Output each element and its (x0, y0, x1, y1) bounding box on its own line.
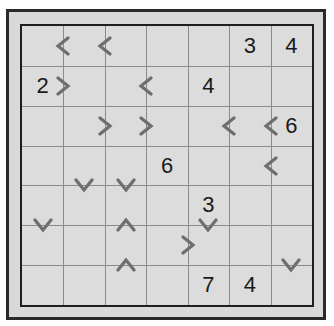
grid-cell[interactable] (229, 185, 270, 225)
grid-cell[interactable] (22, 146, 63, 186)
grid-cell[interactable] (63, 225, 104, 265)
arrow-down-icon (198, 215, 218, 235)
arrow-down-icon (33, 215, 53, 235)
cell-number: 4 (229, 265, 271, 305)
grid-cell[interactable] (22, 265, 63, 305)
grid-cell[interactable] (188, 26, 229, 66)
grid-cell[interactable] (188, 146, 229, 186)
cell-number: 7 (187, 265, 229, 305)
cell-number: 3 (229, 26, 271, 66)
arrow-left-icon (261, 156, 281, 176)
cell-number: 6 (146, 146, 188, 186)
grid-cell[interactable] (271, 66, 312, 106)
arrow-left-icon (261, 116, 281, 136)
arrow-up-icon (116, 215, 136, 235)
arrow-left-icon (53, 36, 73, 56)
grid-cell[interactable] (146, 265, 187, 305)
arrow-right-icon (178, 235, 198, 255)
arrow-right-icon (136, 116, 156, 136)
cell-number: 4 (270, 26, 312, 66)
arrow-left-icon (95, 36, 115, 56)
arrow-down-icon (74, 175, 94, 195)
grid-cell[interactable] (63, 265, 104, 305)
grid-cell[interactable] (229, 66, 270, 106)
grid-cell[interactable] (146, 185, 187, 225)
arrow-left-icon (136, 76, 156, 96)
grid-cell[interactable] (229, 225, 270, 265)
cell-number: 4 (187, 66, 229, 106)
grid-cell[interactable] (146, 26, 187, 66)
arrow-down-icon (281, 255, 301, 275)
puzzle-grid[interactable]: 342466374 (20, 24, 314, 307)
grid-cell[interactable] (22, 106, 63, 146)
arrow-right-icon (95, 116, 115, 136)
arrow-left-icon (219, 116, 239, 136)
arrow-right-icon (53, 76, 73, 96)
arrow-up-icon (116, 255, 136, 275)
arrow-down-icon (116, 175, 136, 195)
grid-cell[interactable] (271, 185, 312, 225)
